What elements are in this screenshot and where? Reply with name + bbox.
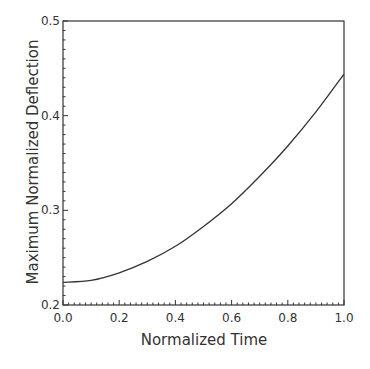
- y-tick-label: 0.2: [41, 298, 60, 312]
- y-axis-title: Maximum Normalized Deflection: [24, 40, 42, 285]
- y-tick-label: 0.5: [41, 14, 60, 28]
- x-tick-label: 1.0: [334, 311, 353, 325]
- x-tick-labels: 0.00.20.40.60.81.0: [53, 311, 353, 325]
- x-axis-title: Normalized Time: [141, 331, 268, 349]
- axis-ticks: [63, 21, 344, 305]
- line-chart: 0.00.20.40.60.81.0 0.20.30.40.5 Normaliz…: [0, 0, 370, 369]
- y-tick-labels: 0.20.30.40.5: [41, 14, 60, 312]
- y-tick-label: 0.3: [41, 203, 60, 217]
- data-line: [63, 74, 344, 282]
- x-tick-label: 0.6: [222, 311, 241, 325]
- x-tick-label: 0.8: [278, 311, 297, 325]
- y-tick-label: 0.4: [41, 109, 60, 123]
- x-tick-label: 0.4: [166, 311, 185, 325]
- plot-frame: [63, 21, 344, 305]
- x-tick-label: 0.2: [110, 311, 129, 325]
- x-tick-label: 0.0: [53, 311, 72, 325]
